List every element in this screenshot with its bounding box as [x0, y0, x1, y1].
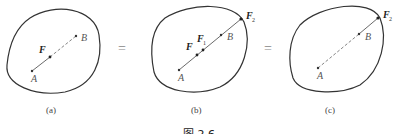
- point-b-label: B: [365, 31, 371, 42]
- line-of-action-dashed: [50, 36, 76, 57]
- panel-a: F A B (a): [7, 9, 100, 115]
- rigid-body-outline: [7, 9, 100, 93]
- force-F-dot: [196, 54, 199, 57]
- equals-sign-2: =: [264, 41, 272, 56]
- force-F1-dot: [202, 49, 205, 52]
- point-a-label: A: [316, 70, 324, 81]
- rigid-body-outline: [290, 6, 384, 92]
- panel-b-caption: (b): [191, 105, 202, 115]
- point-a-label: A: [30, 73, 38, 84]
- point-a-dot: [178, 69, 180, 71]
- force-label-F: F: [38, 44, 46, 55]
- point-a-dot: [31, 70, 33, 72]
- point-b-label: B: [81, 32, 87, 43]
- panel-a-caption: (a): [46, 105, 56, 115]
- point-a-label: A: [177, 72, 185, 83]
- rigid-body-outline: [152, 6, 247, 92]
- point-b-dot: [358, 33, 360, 35]
- force-F2-dot: [376, 16, 379, 19]
- line-of-action: [32, 57, 50, 71]
- panel-c: F 2 A B (c): [290, 6, 392, 115]
- panel-b: F F 1 F 2 A B (b): [152, 6, 255, 115]
- point-a-dot: [317, 67, 319, 69]
- point-b-dot: [75, 35, 77, 37]
- figure-caption: 图 2.6: [183, 128, 215, 134]
- point-b-dot: [220, 34, 222, 36]
- force-subscript-2: 2: [389, 16, 392, 22]
- force-application-dot: [49, 56, 52, 59]
- line-of-action-dashed: [318, 34, 359, 68]
- panel-c-caption: (c): [325, 105, 335, 115]
- point-b-label: B: [227, 31, 233, 42]
- force-subscript-1: 1: [203, 40, 206, 46]
- figure-canvas: F A B (a) = F F 1 F 2 A B (b) = F 2 A B: [0, 0, 395, 134]
- force-F2-dot: [239, 17, 242, 20]
- force-label-F: F: [185, 41, 193, 52]
- force-subscript-2: 2: [252, 17, 255, 23]
- equals-sign-1: =: [118, 41, 126, 56]
